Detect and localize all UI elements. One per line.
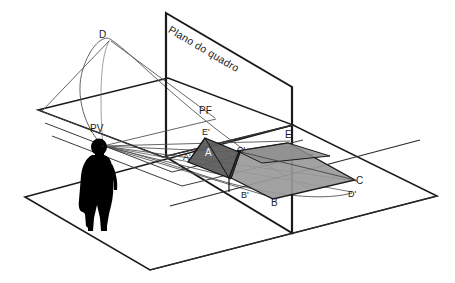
label-a-prime: A': [183, 153, 191, 162]
label-c-prime: C': [237, 146, 245, 155]
label-e-prime: E': [202, 128, 210, 137]
label-e: E: [285, 130, 292, 140]
label-b-prime: B': [241, 191, 249, 200]
ray-horizon-pf: [103, 119, 216, 146]
perspective-diagram: [0, 0, 455, 283]
label-b: B: [271, 198, 278, 208]
viewer-body: [79, 155, 114, 231]
label-a: A: [205, 148, 212, 158]
label-d: D: [99, 30, 106, 40]
label-pv: PV: [90, 124, 103, 134]
label-pf: PF: [199, 106, 212, 116]
point-markers: [102, 145, 105, 148]
label-d-prime: D': [348, 190, 356, 199]
diagram-canvas: Plano do quadro D PV PF E' A' A C' E B' …: [0, 0, 455, 283]
ground-trace-near: [150, 196, 437, 270]
viewer-silhouette: [79, 139, 118, 232]
viewer-head: [91, 139, 107, 156]
aux-line-3: [52, 136, 182, 186]
label-c: C: [356, 176, 363, 186]
marker-pv: [102, 145, 105, 148]
viewer-neck: [95, 153, 104, 157]
